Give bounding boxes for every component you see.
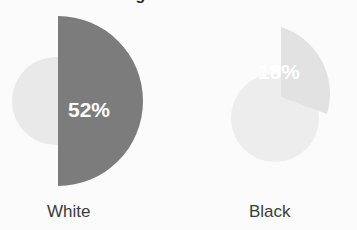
pie-chart-black: 18% Black: [180, 0, 357, 200]
pie-black-svg: [180, 0, 357, 200]
pie-chart-white: 52% White: [0, 0, 180, 200]
chart-canvas: Shooting of Michael Brown 52% White 18% …: [0, 0, 357, 230]
pie-white-category-label: White: [47, 203, 90, 220]
pie-white-value-label: 52%: [68, 99, 110, 120]
pie-black-value-label: 18%: [258, 61, 300, 82]
pie-black-category-label: Black: [249, 203, 291, 220]
